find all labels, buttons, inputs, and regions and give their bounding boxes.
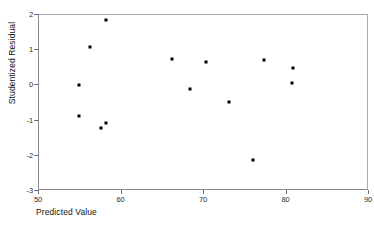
x-axis-tick-label: 90: [353, 195, 374, 204]
x-axis-tick-label: 80: [271, 195, 301, 204]
data-point: [188, 87, 191, 90]
data-point: [291, 81, 294, 84]
data-point: [251, 158, 254, 161]
x-axis-title: Predicted Value: [36, 207, 97, 217]
data-point: [105, 18, 108, 21]
data-point: [228, 101, 231, 104]
x-axis-tick-mark: [368, 190, 369, 194]
scatter-chart: 210-1-2-3 5060708090 Studentized Residua…: [0, 0, 374, 227]
y-axis-tick-mark: [34, 120, 39, 121]
y-axis-tick-mark: [34, 14, 39, 15]
data-point: [88, 46, 91, 49]
data-point: [170, 58, 173, 61]
data-point: [263, 59, 266, 62]
x-axis-tick-label: 70: [188, 195, 218, 204]
x-axis-tick-label: 50: [23, 195, 53, 204]
plot-area: [38, 14, 368, 190]
x-axis-tick-mark: [203, 190, 204, 194]
x-axis-tick-label: 60: [106, 195, 136, 204]
y-axis-tick-mark: [34, 49, 39, 50]
data-point: [291, 67, 294, 70]
y-axis-tick-label: -2: [0, 150, 33, 159]
y-axis-tick-mark: [34, 155, 39, 156]
x-axis-tick-mark: [38, 190, 39, 194]
data-point: [78, 115, 81, 118]
data-point: [104, 121, 107, 124]
data-point: [78, 84, 81, 87]
data-point: [99, 127, 102, 130]
y-axis-title: Studentized Residual: [7, 0, 17, 128]
x-axis-tick-mark: [121, 190, 122, 194]
data-point: [205, 60, 208, 63]
y-axis-tick-mark: [34, 84, 39, 85]
y-axis-tick-label: -3: [0, 186, 33, 195]
x-axis-tick-mark: [286, 190, 287, 194]
